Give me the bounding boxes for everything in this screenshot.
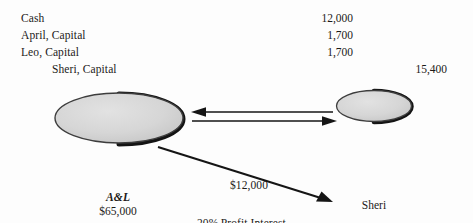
diagram-canvas — [0, 86, 473, 223]
journal-debit-amount: 1,700 — [250, 44, 353, 61]
journal-account-name: Cash — [21, 10, 44, 27]
table-row: April, Capital 1,700 — [0, 27, 473, 44]
journal-account-name: Leo, Capital — [21, 44, 79, 61]
journal-debit-amount: 12,000 — [250, 10, 353, 27]
journal-account-name: Sheri, Capital — [52, 61, 117, 78]
table-row: Leo, Capital 1,700 — [0, 44, 473, 61]
transaction-diagram: A&L $65,000 Sheri $12,000 20% Profit Int… — [0, 86, 473, 223]
table-row: Cash 12,000 — [0, 10, 473, 27]
journal-account-name: April, Capital — [21, 27, 86, 44]
interest-out-arrow — [192, 116, 337, 126]
table-row: Sheri, Capital 15,400 — [0, 61, 473, 78]
cash-in-arrow — [191, 107, 333, 117]
bonus-arrow — [158, 147, 333, 202]
journal-credit-amount: 15,400 — [350, 61, 447, 78]
interest-out-label: 20% Profit Interest — [197, 216, 286, 223]
partner-node-shape — [337, 91, 412, 123]
figure-root: Cash 12,000 April, Capital 1,700 Leo, Ca… — [0, 0, 473, 223]
journal-debit-amount: 1,700 — [250, 27, 353, 44]
journal-entry-table: Cash 12,000 April, Capital 1,700 Leo, Ca… — [0, 0, 473, 86]
partnership-node-shape — [55, 93, 183, 144]
cash-in-label: $12,000 — [230, 178, 268, 192]
